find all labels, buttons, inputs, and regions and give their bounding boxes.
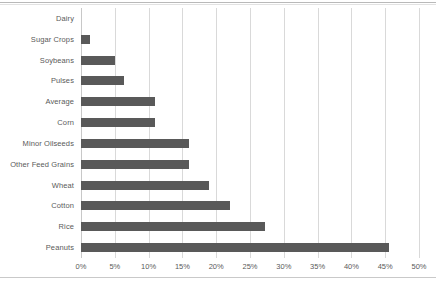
category-label-other-feed-grains: Other Feed Grains [0,154,78,175]
bar-other-feed-grains [81,160,189,169]
bar-peanuts [81,243,389,252]
bar-series [81,8,419,258]
x-tick-10%: 10% [141,262,156,271]
x-tick-30%: 30% [276,262,291,271]
category-label-cotton: Cotton [0,195,78,216]
bar-row [81,237,419,258]
category-label-peanuts: Peanuts [0,237,78,258]
category-label-corn: Corn [0,112,78,133]
bar-cotton [81,201,230,210]
bar-row [81,50,419,71]
bar-minor-oilseeds [81,139,189,148]
bar-row [81,175,419,196]
x-tick-40%: 40% [344,262,359,271]
category-label-sugar-crops: Sugar Crops [0,29,78,50]
bar-corn [81,118,155,127]
category-label-rice: Rice [0,216,78,237]
bar-pulses [81,76,124,85]
x-tick-25%: 25% [242,262,257,271]
x-tick-45%: 45% [378,262,393,271]
x-tick-35%: 35% [310,262,325,271]
bottom-divider-line [0,277,436,278]
category-label-pulses: Pulses [0,71,78,92]
top-divider-line-secondary [0,4,436,5]
bar-row [81,91,419,112]
x-tick-50%: 50% [411,262,426,271]
category-axis-labels: DairySugar CropsSoybeansPulsesAverageCor… [0,8,78,258]
x-tick-5%: 5% [109,262,120,271]
bar-row [81,133,419,154]
category-label-minor-oilseeds: Minor Oilseeds [0,133,78,154]
bar-row [81,195,419,216]
bar-row [81,154,419,175]
bar-average [81,97,155,106]
category-label-wheat: Wheat [0,175,78,196]
bar-sugar-crops [81,35,90,44]
category-label-dairy: Dairy [0,8,78,29]
x-tick-20%: 20% [209,262,224,271]
bar-wheat [81,181,209,190]
bar-row [81,112,419,133]
bar-row [81,71,419,92]
bar-row [81,8,419,29]
top-divider-line [0,2,436,3]
bar-row [81,29,419,50]
category-label-soybeans: Soybeans [0,50,78,71]
bar-rice [81,222,265,231]
bar-chart: DairySugar CropsSoybeansPulsesAverageCor… [0,0,436,282]
category-label-average: Average [0,91,78,112]
gridline-50% [419,8,420,258]
plot-area [81,8,419,258]
x-axis-tick-labels: 0%5%10%15%20%25%30%35%40%45%50% [81,262,419,274]
x-tick-15%: 15% [175,262,190,271]
bar-row [81,216,419,237]
bar-soybeans [81,56,115,65]
x-tick-0%: 0% [76,262,87,271]
